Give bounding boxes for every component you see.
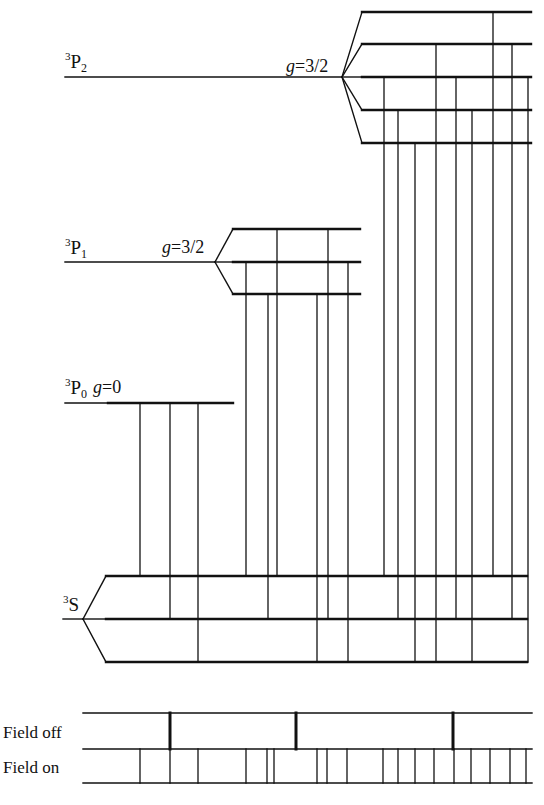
split-connector-3P1: [215, 229, 233, 262]
term-label-3S: 3S: [63, 593, 79, 615]
split-connector-3S: [83, 619, 106, 662]
field-off-label: Field off: [3, 723, 62, 742]
lande-g-factor-3P0: g=0: [93, 377, 121, 397]
lande-g-factor-3P2: g=3/2: [286, 56, 328, 76]
zeeman-effect-diagram: 3P2g=3/23P1g=3/23P0g=03S Field off Field…: [0, 0, 544, 805]
split-connector-3P2: [342, 44, 362, 77]
term-labels: 3P2g=3/23P1g=3/23P0g=03S: [63, 50, 328, 615]
split-connector-3P2: [342, 77, 362, 110]
split-connector-3S: [83, 576, 106, 619]
term-label-3P1: 3P1: [65, 236, 87, 261]
field-on-label: Field on: [3, 758, 60, 777]
spectrum-panel: Field off Field on: [3, 713, 532, 783]
split-connector-3P2: [342, 77, 362, 143]
term-label-3P0: 3P0: [65, 376, 87, 401]
energy-levels: [63, 12, 531, 662]
split-connector-3P2: [342, 12, 362, 77]
split-connector-3P1: [215, 262, 233, 294]
lande-g-factor-3P1: g=3/2: [162, 237, 204, 257]
term-label-3P2: 3P2: [65, 50, 87, 75]
